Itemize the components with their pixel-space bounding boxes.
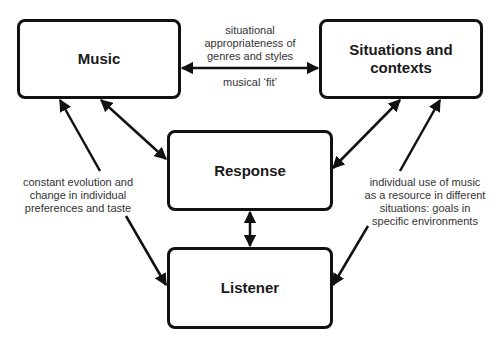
annotation-line: appropriateness of [190,37,310,50]
node-music-label: Music [78,50,121,68]
annotation-individual-use: individual use of music as a resource in… [355,176,495,228]
arrow-left-to-music [60,100,100,171]
annotation-line: situations: goals in [355,202,495,215]
annotation-line: specific environments [355,215,495,228]
annotation-line: genres and styles [190,50,310,63]
annotation-line: change in individual [18,189,138,202]
node-listener: Listener [167,247,333,329]
annotation-line: preferences and taste [18,202,138,215]
arrow-left-to-listener [126,216,166,285]
annotation-musical-fit: musical ‘fit’ [190,76,310,89]
annotation-constant-evolution: constant evolution and change in individ… [18,176,138,215]
diagram-canvas: Music Situations and contexts Response L… [0,0,498,346]
node-situations-and-contexts: Situations and contexts [319,19,483,99]
node-situations-label-line1: Situations and [349,41,452,59]
arrow-situations-response [333,100,400,168]
annotation-line: as a resource in different [355,189,495,202]
node-music: Music [17,19,181,99]
arrow-music-response [101,100,166,159]
annotation-situational-appropriateness: situational appropriateness of genres an… [190,24,310,63]
annotation-line: musical ‘fit’ [190,76,310,89]
annotation-line: situational [190,24,310,37]
annotation-line: constant evolution and [18,176,138,189]
node-situations-label-line2: contexts [370,59,432,77]
arrow-right-to-listener [333,226,368,285]
node-listener-label: Listener [221,279,279,297]
annotation-line: individual use of music [355,176,495,189]
node-response-label: Response [214,162,286,180]
arrow-right-to-situations [400,100,440,171]
node-response: Response [167,130,333,211]
